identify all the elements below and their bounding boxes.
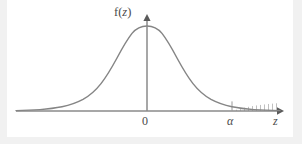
y-axis-label-suffix: ) (127, 5, 131, 19)
normal-curve-svg (0, 0, 302, 144)
figure-container: f(z) 0 α z (0, 0, 302, 144)
alpha-label: α (227, 115, 233, 127)
x-axis-label: z (273, 115, 278, 127)
y-axis-arrowhead (143, 14, 150, 21)
normal-density-curve (16, 26, 280, 111)
y-axis-label: f(z) (114, 6, 131, 19)
origin-label: 0 (142, 115, 148, 127)
